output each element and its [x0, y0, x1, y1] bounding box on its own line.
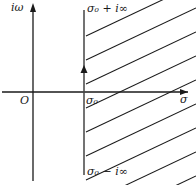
contour-abscissa-label: σ₀	[86, 95, 98, 106]
hatch-line	[86, 8, 196, 60]
contour-abscissa-label-text: σ₀	[86, 94, 98, 107]
contour-direction-arrowhead	[81, 65, 88, 73]
vertical-axis-label: iω	[11, 2, 24, 13]
origin-label: O	[20, 95, 29, 106]
vertical-axis-arrowhead	[30, 3, 36, 12]
hatch-line	[86, 80, 196, 132]
hatch-line	[86, 104, 196, 156]
origin-label-text: O	[20, 94, 29, 107]
complex-plane-figure: iω σ O σ₀ σ₀ + i∞ σ₀ − i∞	[0, 0, 196, 185]
figure-canvas	[0, 0, 196, 185]
horizontal-axis-label-text: σ	[180, 93, 188, 106]
contour-lower-endpoint-label: σ₀ − i∞	[87, 166, 128, 177]
contour-upper-endpoint-label-text: σ₀ + i∞	[87, 2, 128, 15]
contour-lower-endpoint-label-text: σ₀ − i∞	[87, 165, 128, 178]
vertical-axis-label-text: iω	[11, 1, 24, 14]
contour-upper-endpoint-label: σ₀ + i∞	[87, 3, 128, 14]
horizontal-axis-label: σ	[180, 94, 188, 105]
hatch-line	[86, 32, 196, 84]
